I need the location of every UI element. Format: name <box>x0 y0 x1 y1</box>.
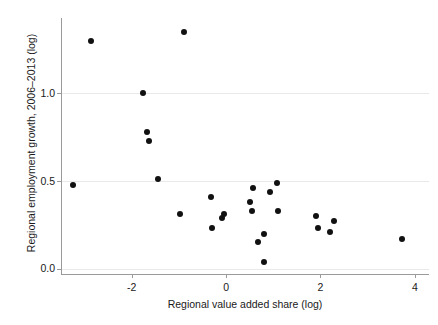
x-tick-mark-2 <box>320 274 321 278</box>
y-tick-mark-2 <box>57 93 61 94</box>
scatter-chart: 0.00.51.0 -2024 Regional value added sha… <box>0 0 438 325</box>
data-point <box>261 231 267 237</box>
y-axis-title: Regional employment growth, 2006–2013 (l… <box>25 18 37 268</box>
data-point <box>327 229 333 235</box>
data-point <box>208 194 214 200</box>
data-point <box>275 208 281 214</box>
gridline-y-2 <box>61 93 429 94</box>
gridline-y-0 <box>61 269 429 270</box>
data-point <box>70 182 76 188</box>
data-point <box>140 90 146 96</box>
gridline-y-1 <box>61 181 429 182</box>
data-point <box>144 129 150 135</box>
x-tick-label: 4 <box>400 281 430 293</box>
data-point <box>267 189 273 195</box>
y-tick-mark-1 <box>57 181 61 182</box>
data-point <box>146 138 152 144</box>
data-point <box>247 199 253 205</box>
x-tick-mark-3 <box>415 274 416 278</box>
x-tick-mark-0 <box>132 274 133 278</box>
data-point <box>209 225 215 231</box>
data-point <box>250 185 256 191</box>
y-tick-mark-0 <box>57 269 61 270</box>
data-point <box>249 208 255 214</box>
data-point <box>181 29 187 35</box>
x-tick-label: 2 <box>305 281 335 293</box>
x-tick-mark-1 <box>226 274 227 278</box>
plot-area <box>61 18 429 274</box>
data-point <box>255 239 261 245</box>
data-point <box>177 211 183 217</box>
data-point <box>331 218 337 224</box>
data-point <box>274 180 280 186</box>
data-point <box>221 211 227 217</box>
data-point <box>315 225 321 231</box>
x-axis-title: Regional value added share (log) <box>61 298 429 310</box>
data-point <box>88 38 94 44</box>
x-axis-line <box>61 274 429 275</box>
data-point <box>261 259 267 265</box>
data-point <box>313 213 319 219</box>
x-tick-label: 0 <box>211 281 241 293</box>
data-point <box>399 236 405 242</box>
y-axis-line <box>61 18 62 275</box>
x-tick-label: -2 <box>117 281 147 293</box>
